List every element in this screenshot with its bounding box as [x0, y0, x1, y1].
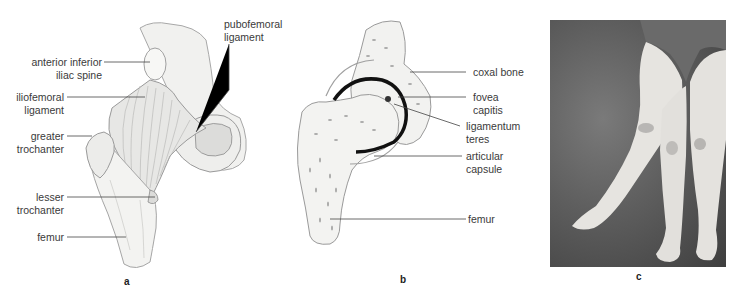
hip-section-illustration [270, 0, 540, 295]
label-coxal-bone: coxal bone [473, 66, 524, 79]
label-femur-b: femur [468, 213, 495, 226]
label-lesser-trochanter: lesser trochanter [17, 191, 64, 217]
panel-a: anterior inferior iliac spine iliofemora… [0, 0, 270, 295]
label-iliofemoral-ligament: iliofemoral ligament [16, 91, 64, 117]
label-anterior-inferior-iliac-spine: anterior inferior iliac spine [31, 56, 102, 82]
panel-letter-c: c [636, 271, 642, 282]
legs-figure [550, 20, 726, 267]
label-ligamentum-teres: ligamentum teres [466, 120, 520, 146]
label-articular-capsule: articular capsule [466, 150, 503, 176]
label-femur-a: femur [37, 231, 64, 244]
label-fovea-capitis: fovea capitis [473, 91, 503, 117]
panel-letter-a: a [124, 276, 130, 287]
label-greater-trochanter: greater trochanter [17, 130, 64, 156]
leg-abduction-photo [550, 20, 726, 267]
panel-letter-b: b [400, 274, 406, 285]
panel-b: coxal bone fovea capitis ligamentum tere… [270, 0, 540, 295]
